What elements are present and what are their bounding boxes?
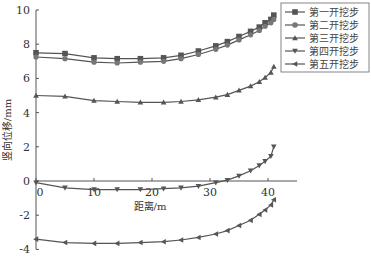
x-axis-label: 距离/m [134, 200, 167, 212]
series-1 [33, 12, 276, 61]
y-tick-label: -2 [19, 209, 30, 222]
y-tick-label: 6 [23, 72, 30, 85]
y-tick-label: 4 [23, 107, 30, 120]
x-tick-label: 20 [145, 186, 159, 199]
series-3 [33, 64, 276, 105]
y-tick-label: -4 [19, 243, 30, 256]
legend-label: 第四开挖步 [309, 45, 359, 57]
y-tick-label: 10 [16, 4, 30, 17]
y-tick-label: 2 [23, 141, 30, 154]
x-tick-label: 40 [261, 186, 275, 199]
x-tick-label: 30 [203, 186, 217, 199]
axes: -4-20246810010203040 [16, 4, 297, 256]
displacement-line-chart: -4-20246810010203040 第一开挖步第二开挖步第三开挖步第四开挖… [0, 0, 371, 258]
legend-label: 第三开挖步 [309, 32, 359, 44]
legend-label: 第五开挖步 [309, 58, 359, 70]
y-tick-label: 0 [23, 175, 30, 188]
legend-label: 第一开挖步 [309, 6, 359, 18]
y-tick-label: 8 [23, 38, 30, 51]
legend: 第一开挖步第二开挖步第三开挖步第四开挖步第五开挖步 [281, 3, 369, 72]
x-tick-label: 0 [37, 186, 44, 199]
legend-label: 第二开挖步 [309, 19, 359, 31]
y-axis-label: 竖向位移/mm [1, 98, 13, 161]
